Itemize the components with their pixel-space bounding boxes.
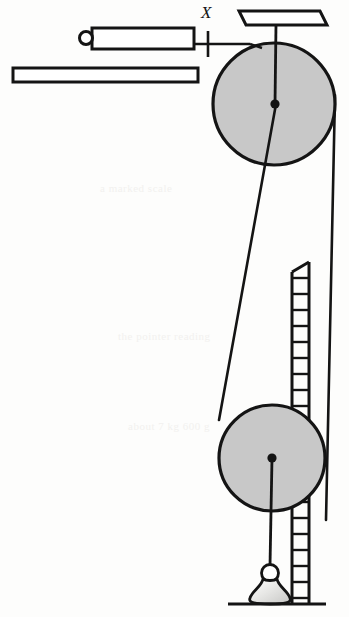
- upper-pulley-spindle: [275, 24, 276, 104]
- label-x: X: [201, 4, 211, 21]
- rod-with-eye-bolt: [80, 28, 195, 49]
- lower-pulley-hub: [267, 453, 276, 462]
- hanger-cord: [270, 458, 272, 566]
- upper-pulley-hub: [270, 99, 279, 108]
- figure-canvas: a marked scale the pointer reading about…: [0, 0, 349, 617]
- eye-ring: [80, 32, 93, 45]
- top-support-bar: [239, 11, 327, 25]
- lower-horizontal-bar: [13, 68, 198, 82]
- weight-body: [250, 579, 291, 604]
- weight-assembly: [250, 565, 291, 605]
- apparatus-diagram: [0, 0, 349, 617]
- belt-right-vertical: [326, 95, 335, 520]
